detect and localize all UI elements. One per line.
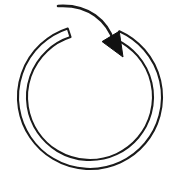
rotation-diagram-svg: Circular rotation arrow diagram An open …: [0, 0, 180, 184]
figure-canvas: Circular rotation arrow diagram An open …: [0, 0, 180, 184]
